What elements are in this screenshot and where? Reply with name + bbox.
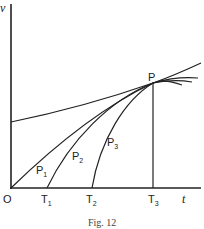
tick-t1-label: T1	[41, 193, 52, 207]
y-axis-label: v	[0, 1, 6, 15]
curve-p2-label: P2	[72, 150, 83, 164]
upper-curve	[11, 63, 201, 122]
curve-p3-label: P3	[107, 136, 118, 150]
curve-p3	[92, 81, 182, 188]
tick-t3-label: T3	[148, 193, 159, 207]
x-axis-label: t	[182, 192, 186, 206]
tick-t2-label: T2	[86, 193, 97, 207]
curve-p1-label: P1	[36, 164, 47, 178]
curve-p2	[47, 81, 192, 188]
origin-label: O	[3, 193, 12, 205]
figure-diagram: v t O P T1 T2 T3 P1 P2 P3 Fig. 12	[0, 0, 204, 229]
point-p-label: P	[148, 71, 155, 83]
figure-caption: Fig. 12	[88, 217, 116, 228]
